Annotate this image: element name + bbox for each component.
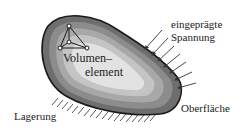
continuum-body-diagram: Volumen– element eingeprägte Spannung Ob… (0, 0, 246, 134)
imposed-stress-label-line2: Spannung (171, 31, 215, 43)
support-label: Lagerung (14, 110, 56, 122)
volume-element-label: Volumen– (63, 52, 112, 65)
surface-label: Oberfläche (181, 102, 230, 114)
volume-element-label-line2: element (85, 66, 123, 79)
imposed-stress-label: eingeprägte (171, 18, 222, 30)
